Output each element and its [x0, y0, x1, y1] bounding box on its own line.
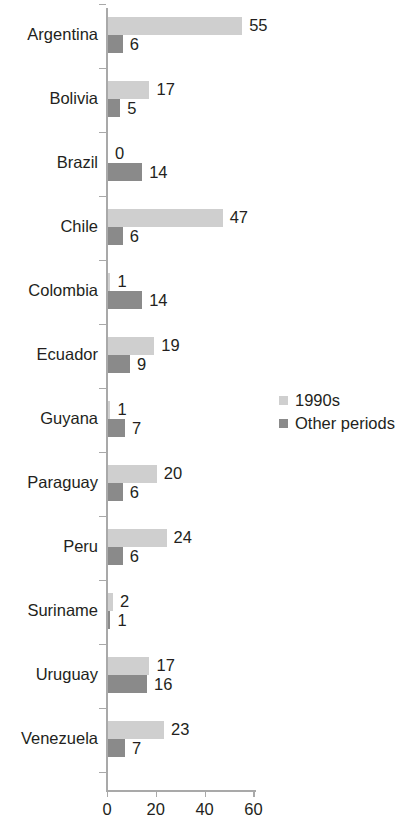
legend-item-other-periods: Other periods — [279, 413, 395, 434]
bar-series-1990s — [108, 721, 164, 739]
bar-value-label: 20 — [164, 464, 182, 482]
category-row: Ecuador199 — [0, 330, 420, 394]
category-label: Uruguay — [0, 665, 98, 684]
category-label: Suriname — [0, 601, 98, 620]
bar-value-label: 1 — [117, 272, 126, 290]
x-axis-tick — [253, 790, 254, 797]
bar-series-other-periods — [108, 227, 123, 245]
bar-value-label: 16 — [154, 675, 172, 693]
bar-series-1990s — [108, 593, 113, 611]
bar-value-label: 6 — [130, 35, 139, 53]
category-row: Uruguay1716 — [0, 650, 420, 714]
legend-swatch-icon — [279, 396, 288, 405]
category-label: Ecuador — [0, 345, 98, 364]
category-label: Guyana — [0, 409, 98, 428]
bar-value-label: 6 — [130, 483, 139, 501]
category-label: Paraguay — [0, 473, 98, 492]
bar-value-label: 2 — [120, 592, 129, 610]
bar-value-label: 19 — [161, 336, 179, 354]
category-label: Colombia — [0, 281, 98, 300]
bar-value-label: 9 — [137, 355, 146, 373]
category-row: Suriname21 — [0, 586, 420, 650]
category-label: Venezuela — [0, 729, 98, 748]
category-row: Brazil014 — [0, 138, 420, 202]
bar-series-1990s — [108, 273, 110, 291]
category-label: Bolivia — [0, 89, 98, 108]
bar-value-label: 14 — [149, 291, 167, 309]
bar-value-label: 55 — [249, 16, 267, 34]
x-axis-tick-label: 60 — [223, 800, 283, 819]
legend-swatch-icon — [279, 419, 288, 428]
category-label: Brazil — [0, 153, 98, 172]
chart-legend: 1990s Other periods — [279, 390, 395, 436]
bar-value-label: 0 — [115, 144, 124, 162]
category-row: Paraguay206 — [0, 458, 420, 522]
bar-series-other-periods — [108, 419, 125, 437]
bar-series-1990s — [108, 529, 167, 547]
y-axis-tick — [99, 4, 106, 5]
category-row: Colombia114 — [0, 266, 420, 330]
bar-series-other-periods — [108, 547, 123, 565]
bar-value-label: 47 — [230, 208, 248, 226]
legend-label: Other periods — [295, 414, 395, 433]
bar-value-label: 7 — [132, 419, 141, 437]
bar-value-label: 1 — [117, 400, 126, 418]
plot-area: Argentina556Bolivia175Brazil014Chile476C… — [0, 0, 420, 834]
bar-series-other-periods — [108, 611, 110, 629]
bar-series-1990s — [108, 17, 242, 35]
bar-series-1990s — [108, 401, 110, 419]
bar-series-other-periods — [108, 355, 130, 373]
category-row: Peru246 — [0, 522, 420, 586]
category-label: Argentina — [0, 25, 98, 44]
legend-label: 1990s — [295, 391, 340, 410]
bar-value-label: 23 — [171, 720, 189, 738]
bar-value-label: 24 — [174, 528, 192, 546]
bar-value-label: 17 — [156, 80, 174, 98]
bar-series-1990s — [108, 209, 223, 227]
bar-series-other-periods — [108, 291, 142, 309]
bar-series-other-periods — [108, 163, 142, 181]
bar-value-label: 14 — [149, 163, 167, 181]
bar-series-1990s — [108, 81, 149, 99]
bar-value-label: 6 — [130, 227, 139, 245]
category-row: Chile476 — [0, 202, 420, 266]
x-axis-tick — [156, 790, 157, 797]
bar-value-label: 5 — [127, 99, 136, 117]
category-row: Venezuela237 — [0, 714, 420, 778]
category-label: Chile — [0, 217, 98, 236]
bar-series-other-periods — [108, 35, 123, 53]
bar-series-1990s — [108, 657, 149, 675]
bar-value-label: 7 — [132, 739, 141, 757]
bar-value-label: 1 — [117, 611, 126, 629]
bar-series-other-periods — [108, 675, 147, 693]
horizontal-bar-chart: Argentina556Bolivia175Brazil014Chile476C… — [0, 0, 420, 834]
bar-value-label: 17 — [156, 656, 174, 674]
bar-value-label: 6 — [130, 547, 139, 565]
legend-item-1990s: 1990s — [279, 390, 395, 411]
x-axis-line — [106, 790, 256, 792]
category-row: Bolivia175 — [0, 74, 420, 138]
bar-series-1990s — [108, 465, 157, 483]
bar-series-other-periods — [108, 739, 125, 757]
category-label: Peru — [0, 537, 98, 556]
x-axis-tick — [205, 790, 206, 797]
bar-series-other-periods — [108, 99, 120, 117]
bar-series-1990s — [108, 337, 154, 355]
category-row: Argentina556 — [0, 10, 420, 74]
x-axis-tick — [107, 790, 108, 797]
bar-series-other-periods — [108, 483, 123, 501]
